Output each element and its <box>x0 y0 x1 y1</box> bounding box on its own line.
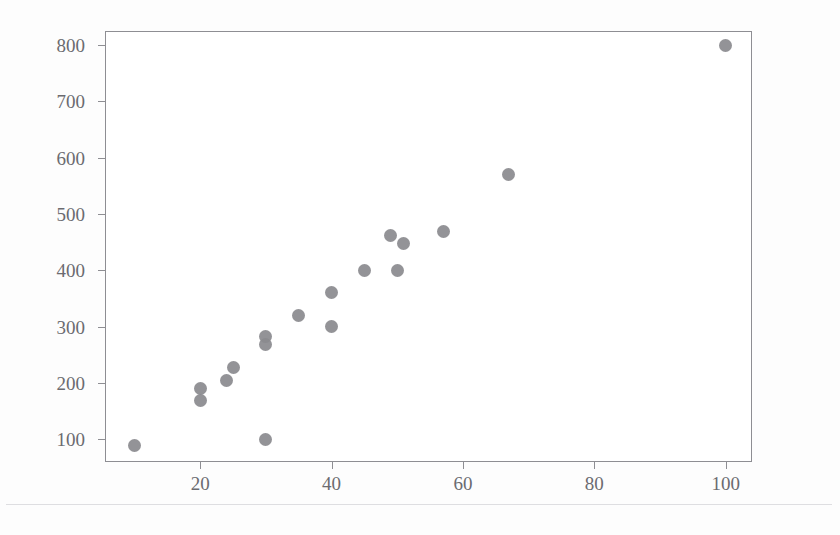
scatter-point <box>719 39 732 52</box>
y-tick-mark <box>98 439 105 440</box>
scatter-point <box>391 264 404 277</box>
y-tick-label: 400 <box>25 261 85 280</box>
y-tick-label: 300 <box>25 317 85 336</box>
x-tick-mark <box>594 462 595 469</box>
x-tick-label: 40 <box>302 474 362 493</box>
y-tick-label: 200 <box>25 374 85 393</box>
y-tick-mark <box>98 327 105 328</box>
scatter-point <box>358 264 371 277</box>
x-tick-mark <box>200 462 201 469</box>
y-tick-label: 500 <box>25 205 85 224</box>
y-tick-mark <box>98 45 105 46</box>
scatter-point <box>220 374 233 387</box>
scatter-point <box>437 225 450 238</box>
x-tick-label: 100 <box>696 474 756 493</box>
x-tick-label: 60 <box>433 474 493 493</box>
y-tick-label: 600 <box>25 148 85 167</box>
y-tick-label: 100 <box>25 430 85 449</box>
y-tick-mark <box>98 270 105 271</box>
y-tick-label: 800 <box>25 36 85 55</box>
y-tick-mark <box>98 383 105 384</box>
y-tick-mark <box>98 214 105 215</box>
y-tick-mark <box>98 101 105 102</box>
scatter-point <box>194 394 207 407</box>
y-tick-mark <box>98 158 105 159</box>
scatter-plot-figure: 100200300400500600700800 20406080100 <box>0 0 840 535</box>
x-tick-mark <box>726 462 727 469</box>
scatter-point <box>194 382 207 395</box>
x-tick-label: 80 <box>564 474 624 493</box>
y-tick-label: 700 <box>25 92 85 111</box>
x-tick-mark <box>332 462 333 469</box>
x-tick-label: 20 <box>170 474 230 493</box>
scatter-point <box>227 361 240 374</box>
scatter-point <box>128 439 141 452</box>
x-tick-mark <box>463 462 464 469</box>
